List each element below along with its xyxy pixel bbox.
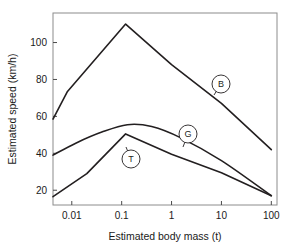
annotation-label-b: B xyxy=(218,79,224,89)
x-axis-title: Estimated body mass (t) xyxy=(108,230,221,242)
y-tick-label: 20 xyxy=(36,185,48,196)
data-curves xyxy=(53,24,271,197)
chart-figure: 20406080100 0.010.1110100 BGT Estimated … xyxy=(0,0,296,251)
estimated-speed-vs-body-mass-chart: 20406080100 0.010.1110100 BGT Estimated … xyxy=(0,0,296,251)
curve-b xyxy=(53,24,271,150)
x-tick-label: 10 xyxy=(216,210,228,221)
series-annotations: BGT xyxy=(122,75,230,168)
curve-t xyxy=(53,134,271,197)
y-tick-label: 60 xyxy=(36,111,48,122)
annotation-label-g: G xyxy=(184,129,191,139)
x-tick-label: 1 xyxy=(169,210,175,221)
y-tick-label: 100 xyxy=(30,37,47,48)
x-axis-ticks: 0.010.1110100 xyxy=(62,201,280,221)
x-tick-label: 100 xyxy=(263,210,280,221)
curve-g xyxy=(53,124,271,195)
x-tick-label: 0.1 xyxy=(115,210,129,221)
annotation-label-t: T xyxy=(128,154,134,164)
y-tick-label: 40 xyxy=(36,148,48,159)
x-tick-label: 0.01 xyxy=(62,210,82,221)
y-tick-label: 80 xyxy=(36,74,48,85)
y-axis-title: Estimated speed (km/h) xyxy=(6,54,18,165)
